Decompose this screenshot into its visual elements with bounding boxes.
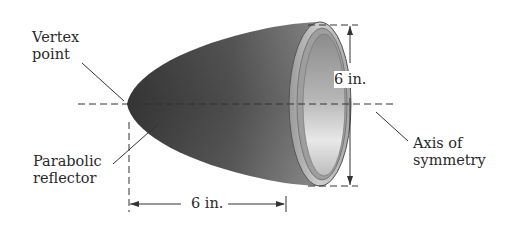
axis-leader-line [376, 112, 408, 141]
reflector-label-line1: Parabolic [33, 153, 102, 170]
height-dimension-label: 6 in. [334, 71, 366, 88]
depth-dimension-label: 6 in. [191, 195, 223, 212]
vertex-label-line1: Vertex [32, 29, 79, 46]
reflector-leader-line [113, 124, 158, 164]
vertex-point-label: Vertex point [32, 29, 79, 63]
axis-label-line2: symmetry [413, 152, 486, 169]
parabolic-reflector-label: Parabolic reflector [33, 153, 102, 187]
axis-label-line1: Axis of [413, 135, 486, 152]
vertex-leader-line [82, 63, 124, 101]
vertex-label-line2: point [32, 46, 79, 63]
axis-of-symmetry-label: Axis of symmetry [413, 135, 486, 169]
reflector-label-line2: reflector [33, 170, 102, 187]
